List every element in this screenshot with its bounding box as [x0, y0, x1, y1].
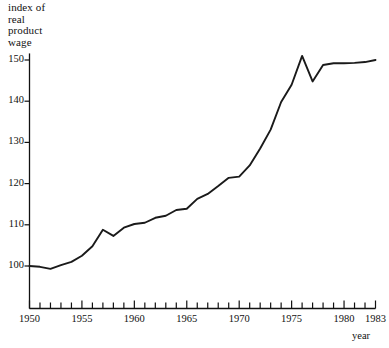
y-axis-ticks — [25, 60, 30, 266]
x-axis-ticks — [30, 301, 376, 309]
chart-container: index of real product wage year 10011012… — [0, 0, 389, 348]
axes-group — [30, 53, 376, 308]
plot-area — [0, 0, 389, 348]
data-line-real-product-wage — [30, 56, 376, 269]
